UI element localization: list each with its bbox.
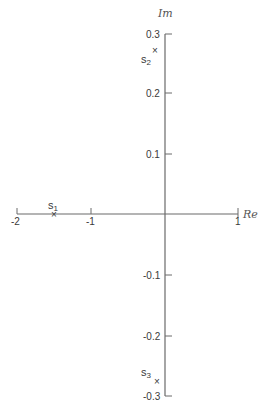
tick-label-re-neg2: -2: [11, 216, 20, 227]
point-s3: × s3: [141, 366, 160, 387]
imag-axis-ticks: 0.3 0.2 0.1 -0.1 -0.2 -0.3: [143, 29, 172, 402]
tick-label-im-neg0.1: -0.1: [143, 270, 161, 281]
point-s1: × s1: [48, 199, 59, 220]
tick-label-im-0.3: 0.3: [146, 29, 160, 40]
tick-label-re-1: 1: [235, 216, 241, 227]
svg-text:s1: s1: [48, 199, 59, 213]
tick-label-im-neg0.3: -0.3: [143, 391, 161, 402]
pole-marker-icon: ×: [154, 376, 160, 387]
real-axis-label: Re: [242, 208, 258, 221]
complex-plane-plot: -2 -1 1 Re 0.3 0.2 0.1 -0.1 -0.2 -0.3 Im…: [0, 0, 274, 418]
tick-label-im-0.1: 0.1: [146, 149, 160, 160]
svg-text:s3: s3: [141, 366, 152, 380]
pole-marker-icon: ×: [152, 45, 158, 56]
point-s2: × s2: [141, 45, 158, 67]
tick-label-re-neg1: -1: [86, 216, 95, 227]
imaginary-axis-label: Im: [157, 7, 173, 20]
tick-label-im-neg0.2: -0.2: [143, 331, 161, 342]
tick-label-im-0.2: 0.2: [146, 88, 160, 99]
svg-text:s2: s2: [141, 53, 152, 67]
real-axis-ticks: -2 -1 1: [11, 208, 241, 227]
